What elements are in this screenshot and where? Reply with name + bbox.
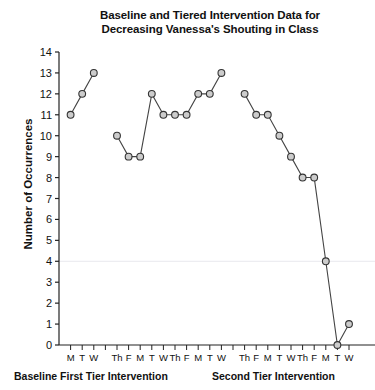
x-axis-tick-label: W <box>345 352 354 363</box>
x-axis-tick-label: Th <box>169 352 180 363</box>
x-axis-tick-label: F <box>184 352 190 363</box>
data-point <box>253 111 260 118</box>
phase-label-baseline-first-tier: Baseline First Tier Intervention <box>14 370 168 382</box>
data-point <box>160 111 167 118</box>
x-axis-tick-label: M <box>322 352 330 363</box>
data-point <box>264 111 271 118</box>
y-axis-tick-label: 7 <box>46 193 52 205</box>
x-axis-tick-label: Th <box>239 352 250 363</box>
x-axis-tick-label: F <box>311 352 317 363</box>
y-axis-tick-label: 3 <box>46 276 52 288</box>
y-axis-tick-label: 10 <box>40 130 52 142</box>
x-axis-tick-label: T <box>149 352 155 363</box>
x-axis-tick-label: M <box>194 352 202 363</box>
data-point <box>311 174 318 181</box>
data-point <box>346 321 353 328</box>
data-point <box>114 132 121 139</box>
data-point <box>195 90 202 97</box>
x-axis-tick-label: M <box>136 352 144 363</box>
phase-label-second-tier: Second Tier Intervention <box>212 370 335 382</box>
y-axis-tick-label: 2 <box>46 297 52 309</box>
x-axis-tick-label: W <box>217 352 226 363</box>
data-line-second-tier-intervention <box>245 94 349 345</box>
x-axis-tick-label: M <box>67 352 75 363</box>
x-axis-tick-label: F <box>253 352 259 363</box>
y-axis-tick-label: 0 <box>46 339 52 351</box>
x-axis-tick-label: Th <box>297 352 308 363</box>
y-axis-tick-label: 12 <box>40 88 52 100</box>
x-axis-tick-label: W <box>287 352 296 363</box>
y-axis-tick-label: 6 <box>46 213 52 225</box>
data-point <box>183 111 190 118</box>
data-point <box>288 153 295 160</box>
data-point <box>241 90 248 97</box>
x-axis-tick-label: T <box>276 352 282 363</box>
data-point <box>218 70 225 77</box>
data-point <box>322 258 329 265</box>
y-axis-tick-label: 5 <box>46 234 52 246</box>
data-point <box>334 342 341 349</box>
data-point <box>67 111 74 118</box>
data-point <box>148 90 155 97</box>
data-point <box>90 70 97 77</box>
data-point <box>299 174 306 181</box>
y-axis-tick-label: 8 <box>46 172 52 184</box>
x-axis-tick-label: M <box>264 352 272 363</box>
y-axis-tick-label: 13 <box>40 67 52 79</box>
chart-container: Baseline and Tiered Intervention Data fo… <box>0 0 375 390</box>
y-axis-tick-label: 1 <box>46 318 52 330</box>
data-point <box>137 153 144 160</box>
x-axis-tick-label: F <box>126 352 132 363</box>
x-axis-tick-label: T <box>207 352 213 363</box>
x-axis-tick-label: W <box>89 352 98 363</box>
y-axis-tick-label: 14 <box>40 46 52 58</box>
y-axis-tick-label: 9 <box>46 151 52 163</box>
data-point <box>79 90 86 97</box>
x-axis-tick-label: Th <box>111 352 122 363</box>
y-axis-tick-label: 11 <box>41 109 52 121</box>
data-point <box>172 111 179 118</box>
x-axis-tick-label: T <box>79 352 85 363</box>
data-point <box>125 153 132 160</box>
y-axis-tick-label: 4 <box>46 255 52 267</box>
data-line-first-tier-intervention <box>117 73 221 157</box>
data-point <box>276 132 283 139</box>
chart-plot-area: 01234567891011121314MTWThFMTWThFMTWThFMT… <box>0 0 375 390</box>
x-axis-tick-label: W <box>159 352 168 363</box>
data-point <box>206 90 213 97</box>
x-axis-tick-label: T <box>334 352 340 363</box>
